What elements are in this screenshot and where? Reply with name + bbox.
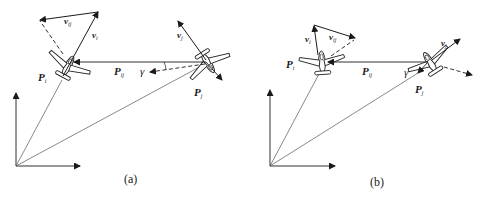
relative-velocity-dashed-a — [40, 21, 63, 54]
caption-b: (b) — [370, 175, 384, 189]
label-vj-a: vj — [177, 30, 183, 41]
position-vector-pi-b — [270, 72, 320, 166]
label-pi-a: Pi — [38, 71, 47, 84]
position-vector-pj-b — [270, 73, 418, 166]
label-vj-b: vj — [441, 38, 447, 49]
panel-b: vi vij vj Pi Pij Pj γ (b) — [270, 25, 472, 189]
panel-a: vij vi vj Pi Pij Pj γ (a) — [16, 12, 233, 186]
label-vij-b: vij — [329, 32, 337, 43]
diagram-canvas: vij vi vj Pi Pij Pj γ (a) vi vij v — [0, 0, 481, 197]
label-pij-b: Pij — [362, 65, 372, 78]
label-vi-b: vi — [305, 34, 311, 45]
label-pj-b: Pj — [415, 83, 424, 96]
label-gamma-b: γ — [404, 66, 409, 78]
label-vi-a: vi — [92, 30, 98, 41]
velocity-vij-a — [40, 12, 98, 20]
caption-a: (a) — [124, 172, 137, 186]
velocity-vi-b — [314, 26, 318, 55]
relative-velocity-direction-b — [444, 67, 472, 75]
label-vij-a: vij — [64, 16, 72, 27]
label-gamma-a: γ — [140, 65, 145, 77]
position-vector-pi-a — [16, 80, 62, 166]
label-pj-a: Pj — [194, 86, 203, 99]
aircraft-i-b — [298, 49, 346, 76]
heading-j-a — [206, 62, 222, 80]
label-pij-a: Pij — [114, 65, 124, 78]
gamma-arc-a — [164, 62, 166, 70]
label-pi-b: Pi — [286, 58, 295, 71]
